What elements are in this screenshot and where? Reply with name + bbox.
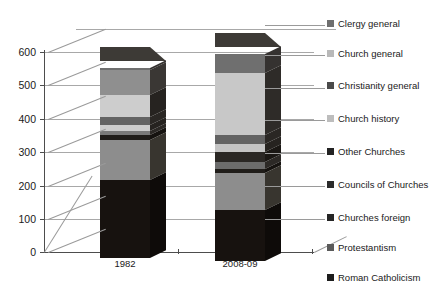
leader-diag-5	[48, 163, 106, 187]
bar-1982[interactable]	[100, 47, 150, 238]
segment-1982-other-churches[interactable]	[100, 117, 150, 125]
y-axis-label-500: 500	[2, 80, 36, 90]
stacked-bar-chart: 600 500 400 300 200 100 0	[0, 0, 447, 289]
legend-label-roman-catholicism: Roman Catholicism	[338, 272, 420, 283]
bar-2008-09[interactable]	[215, 33, 265, 238]
legend-label-church-general: Church general	[338, 48, 403, 59]
legend-item-roman-catholicism[interactable]: Roman Catholicism	[327, 272, 420, 283]
legend-label-clergy-general: Clergy general	[338, 18, 400, 29]
segment-2008-church-history[interactable]	[215, 144, 265, 152]
leader-diag-2	[48, 62, 106, 86]
segment-1982-church-general[interactable]	[100, 70, 150, 95]
segment-2008-roman-catholicism[interactable]	[215, 210, 265, 261]
segment-1982-roman-catholicism[interactable]	[100, 180, 150, 258]
legend-label-christianity-general: Christianity general	[338, 80, 419, 91]
y-tick-400	[40, 119, 44, 120]
legend-item-councils-of-churches[interactable]: Councils of Churches	[327, 179, 428, 190]
leader-line-church-history	[265, 120, 325, 121]
segment-1982-christianity-general[interactable]	[100, 95, 150, 117]
leader-line-other-churches	[265, 153, 325, 154]
legend-item-clergy-general[interactable]: Clergy general	[327, 18, 400, 29]
legend-swatch-clergy-general	[327, 20, 334, 27]
bar-1982-top-face	[100, 47, 166, 61]
legend-swatch-church-history	[327, 115, 334, 122]
segment-2008-clergy-general[interactable]	[215, 54, 265, 73]
leader-line-christianity-general	[265, 88, 325, 89]
y-axis-label-400: 400	[2, 114, 36, 124]
legend-item-other-churches[interactable]: Other Churches	[327, 146, 405, 157]
legend-swatch-roman-catholicism	[327, 274, 334, 281]
legend-item-protestantism[interactable]: Protestantism	[327, 242, 396, 253]
y-tick-600	[40, 52, 44, 53]
leader-diag-4	[48, 129, 106, 153]
perspective-edge-left	[44, 176, 93, 253]
segment-2008-protestantism[interactable]	[215, 173, 265, 210]
bar-2008-09-top-face	[215, 33, 281, 47]
leader-line-councils-of-churches	[265, 186, 325, 187]
segment-2008-church-general[interactable]	[215, 73, 265, 135]
y-tick-100	[40, 219, 44, 220]
leader-line-clergy-general	[265, 25, 325, 26]
leader-diag-3	[48, 96, 106, 120]
legend-swatch-church-general	[327, 50, 334, 57]
x-axis-label-1982: 1982	[95, 258, 155, 269]
legend-swatch-churches-foreign	[327, 214, 334, 221]
legend-label-other-churches: Other Churches	[338, 146, 405, 157]
y-axis-label-0: 0	[2, 247, 36, 257]
leader-line-church-general	[265, 55, 325, 56]
legend-item-church-history[interactable]: Church history	[327, 113, 399, 124]
segment-2008-other-churches[interactable]	[215, 152, 265, 162]
legend-label-church-history: Church history	[338, 113, 399, 124]
y-axis-label-200: 200	[2, 181, 36, 191]
leader-diag-1	[48, 29, 106, 53]
y-tick-200	[40, 186, 44, 187]
perspective-edge-back-top	[76, 29, 336, 30]
legend-label-churches-foreign: Churches foreign	[338, 212, 410, 223]
leader-line-churches-foreign	[265, 219, 325, 220]
y-axis-label-600: 600	[2, 47, 36, 57]
segment-1982-protestantism[interactable]	[100, 140, 150, 180]
legend-item-christianity-general[interactable]: Christianity general	[327, 80, 419, 91]
y-axis	[44, 50, 45, 253]
legend-swatch-councils-of-churches	[327, 181, 334, 188]
legend-swatch-protestantism	[327, 244, 334, 251]
legend-item-church-general[interactable]: Church general	[327, 48, 403, 59]
legend-item-churches-foreign[interactable]: Churches foreign	[327, 212, 410, 223]
segment-2008-christianity-general[interactable]	[215, 135, 265, 144]
legend-label-councils-of-churches: Councils of Churches	[338, 179, 428, 190]
y-tick-300	[40, 152, 44, 153]
y-axis-label-300: 300	[2, 147, 36, 157]
y-tick-500	[40, 85, 44, 86]
legend-swatch-christianity-general	[327, 82, 334, 89]
x-tick-2	[312, 249, 313, 254]
legend-swatch-other-churches	[327, 148, 334, 155]
legend-label-protestantism: Protestantism	[338, 242, 396, 253]
x-axis-label-2008-09: 2008-09	[205, 258, 275, 269]
segment-2008-councils-of-churches[interactable]	[215, 162, 265, 169]
y-axis-label-100: 100	[2, 214, 36, 224]
x-tick-1	[178, 249, 179, 254]
